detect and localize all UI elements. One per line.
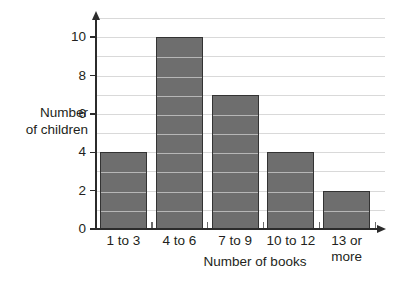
x-tick-mark (263, 222, 264, 228)
gridline (96, 37, 385, 38)
bar-gridline (268, 211, 313, 212)
bar[interactable] (100, 152, 147, 229)
bar-gridline (157, 211, 202, 212)
y-tick-mark (90, 75, 96, 76)
y-axis-title: Number of children (8, 104, 88, 138)
y-tick-label: 10 (58, 30, 86, 44)
bar-gridline (157, 115, 202, 116)
bar[interactable] (267, 152, 314, 229)
bar-gridline (213, 172, 258, 173)
bar[interactable] (212, 95, 259, 229)
gridline (96, 56, 385, 57)
bar-gridline (213, 192, 258, 193)
y-tick-mark (90, 36, 96, 37)
gridline (96, 18, 385, 19)
x-tick-mark (207, 222, 208, 228)
bar-gridline (157, 172, 202, 173)
bar-gridline (324, 211, 369, 212)
bar-gridline (213, 211, 258, 212)
y-tick-mark (90, 228, 96, 229)
bar-gridline (213, 134, 258, 135)
bar[interactable] (323, 191, 370, 229)
x-tick-mark (319, 222, 320, 228)
y-axis-arrow-icon (92, 11, 100, 20)
y-tick-label: 0 (58, 222, 86, 236)
bar-gridline (157, 96, 202, 97)
y-tick-label: 8 (58, 69, 86, 83)
x-axis-arrow-icon (377, 225, 386, 233)
bar-gridline (268, 172, 313, 173)
bar[interactable] (156, 37, 203, 229)
bar-gridline (101, 211, 146, 212)
bar-gridline (157, 77, 202, 78)
y-tick-mark (90, 152, 96, 153)
x-tick-mark (375, 222, 376, 228)
bar-gridline (157, 153, 202, 154)
bar-gridline (157, 134, 202, 135)
bar-gridline (101, 172, 146, 173)
bar-gridline (213, 153, 258, 154)
y-tick-label: 2 (58, 184, 86, 198)
plot-area (96, 18, 385, 229)
x-tick-mark (151, 222, 152, 228)
y-tick-mark (90, 190, 96, 191)
y-tick-label: 4 (58, 145, 86, 159)
x-axis-title: Number of books (150, 255, 360, 269)
gridline (96, 76, 385, 77)
x-axis-line (96, 228, 381, 230)
y-tick-mark (90, 113, 96, 114)
bar-gridline (157, 192, 202, 193)
bar-chart: 0246810 1 to 34 to 67 to 910 to 1213 or … (0, 0, 407, 281)
y-axis-line (95, 18, 97, 230)
bar-gridline (213, 115, 258, 116)
bar-gridline (101, 192, 146, 193)
bar-gridline (268, 192, 313, 193)
bar-gridline (157, 57, 202, 58)
